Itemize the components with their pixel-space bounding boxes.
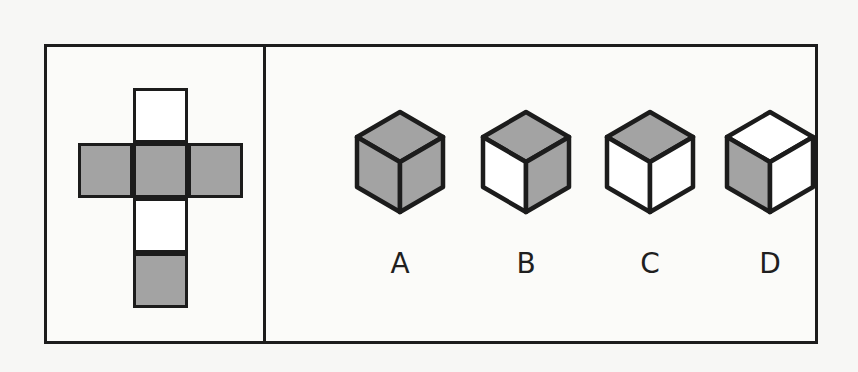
- net-cell-middle-left: [78, 143, 133, 198]
- net-cell-bottom-center: [133, 253, 188, 308]
- cube-option-c[interactable]: [604, 109, 696, 215]
- cube-option-d[interactable]: [724, 109, 816, 215]
- cube-option-b[interactable]: [480, 109, 572, 215]
- cube-label-d: D: [724, 247, 816, 280]
- cube-net-panel: [47, 47, 263, 341]
- net-cell-middle-center: [133, 143, 188, 198]
- net-cell-lower-center: [133, 198, 188, 253]
- puzzle-frame: A B C D: [44, 44, 818, 344]
- net-cell-middle-right: [188, 143, 243, 198]
- cube-label-c: C: [604, 247, 696, 280]
- net-cell-top: [133, 88, 188, 143]
- cube-option-a[interactable]: [354, 109, 446, 215]
- cube-label-a: A: [354, 247, 446, 280]
- options-panel: A B C D: [266, 47, 818, 341]
- cube-label-b: B: [480, 247, 572, 280]
